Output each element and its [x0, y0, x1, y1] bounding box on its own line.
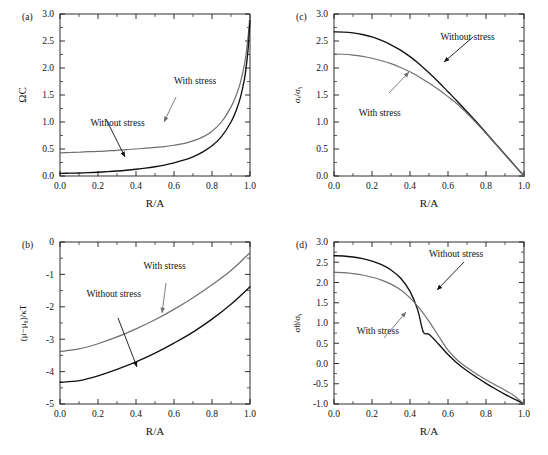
d-xticklabel: 0.8 — [480, 409, 492, 419]
d-yticklabel: -0.5 — [313, 379, 328, 389]
a-yticklabel: 0.5 — [42, 144, 54, 154]
panel-c-ylabel: σᵣ/σᵧ — [292, 86, 303, 103]
b-yticklabel: -5 — [46, 399, 54, 409]
panel-b-tag: (b) — [22, 240, 33, 251]
a-yticklabel: 1.5 — [42, 90, 54, 100]
panel-d-frame — [334, 242, 524, 404]
d-yticklabel: 2.5 — [316, 258, 328, 268]
panel-c-frame — [334, 14, 524, 176]
b-yticklabel: -1 — [46, 270, 54, 280]
d-xticklabel: 1.0 — [518, 409, 530, 419]
a-xticklabel: 0.4 — [130, 181, 142, 191]
c-annotation-label: Without stress — [440, 32, 495, 42]
d-yticklabel: 3.0 — [316, 237, 328, 247]
panel-d-svg: 0.00.20.40.60.81.0-1.0-0.50.00.51.01.52.… — [274, 228, 548, 455]
panel-c-tag: (c) — [296, 12, 307, 23]
panel-a-svg: 0.00.20.40.60.81.00.00.51.01.52.02.53.0 … — [0, 0, 274, 227]
c-yticklabel: 2.0 — [316, 63, 328, 73]
d-xticklabel: 0.4 — [404, 409, 416, 419]
panel-c-xlabel: R/A — [420, 197, 438, 209]
panel-d: 0.00.20.40.60.81.0-1.0-0.50.00.51.01.52.… — [274, 228, 548, 455]
c-yticklabel: 3.0 — [316, 9, 328, 19]
a-xticklabel: 0.2 — [92, 181, 104, 191]
a-yticklabel: 2.0 — [42, 63, 54, 73]
c-annotation-label: With stress — [359, 108, 401, 118]
a-xticklabel: 0.8 — [206, 181, 218, 191]
b-xticklabel: 1.0 — [244, 409, 256, 419]
d-yticklabel: 1.5 — [316, 298, 328, 308]
b-annotation-label: With stress — [144, 261, 186, 271]
b-xticklabel: 0.8 — [206, 409, 218, 419]
d-xticklabel: 0.0 — [328, 409, 340, 419]
d-annotation-label: Without stress — [429, 249, 484, 259]
a-xticklabel: 1.0 — [244, 181, 256, 191]
panel-b-ylabel: (μ−μ₀)/κT — [18, 304, 28, 341]
b-yticklabel: -2 — [46, 302, 54, 312]
figure-four-panel-plot: 0.00.20.40.60.81.00.00.51.01.52.02.53.0 … — [0, 0, 548, 455]
b-xticklabel: 0.0 — [54, 409, 66, 419]
d-yticklabel: 0.0 — [316, 359, 328, 369]
c-yticklabel: 1.0 — [316, 117, 328, 127]
a-xticklabel: 0.6 — [168, 181, 180, 191]
b-yticklabel: -4 — [46, 367, 54, 377]
d-xticklabel: 0.6 — [442, 409, 454, 419]
panel-a-xlabel: R/A — [146, 197, 164, 209]
d-yticklabel: -1.0 — [313, 399, 328, 409]
panel-b-svg: 0.00.20.40.60.81.0-5-4-3-2-10 With stres… — [0, 228, 274, 455]
b-xticklabel: 0.2 — [92, 409, 104, 419]
panel-b: 0.00.20.40.60.81.0-5-4-3-2-10 With stres… — [0, 228, 274, 455]
panel-a-tag: (a) — [22, 12, 33, 23]
panel-b-plot-area: 0.00.20.40.60.81.0-5-4-3-2-10 With stres… — [46, 237, 256, 419]
c-xticklabel: 0.6 — [442, 181, 454, 191]
panel-c: 0.00.20.40.60.81.00.00.51.01.52.02.53.0 … — [274, 0, 548, 227]
panel-c-plot-area: 0.00.20.40.60.81.00.00.51.01.52.02.53.0 … — [316, 9, 530, 191]
panel-a-ylabel: ΩC — [16, 87, 28, 103]
b-annotation-label: Without stress — [87, 289, 142, 299]
panel-a: 0.00.20.40.60.81.00.00.51.01.52.02.53.0 … — [0, 0, 274, 227]
a-annotation-label: With stress — [174, 76, 216, 86]
d-xticklabel: 0.2 — [366, 409, 378, 419]
panel-d-tag: (d) — [296, 240, 307, 251]
c-xticklabel: 0.2 — [366, 181, 378, 191]
c-xticklabel: 0.8 — [480, 181, 492, 191]
panel-d-xlabel: R/A — [420, 425, 438, 437]
d-yticklabel: 2.0 — [316, 278, 328, 288]
c-yticklabel: 2.5 — [316, 36, 328, 46]
b-xticklabel: 0.6 — [168, 409, 180, 419]
c-yticklabel: 0.0 — [316, 171, 328, 181]
a-annotation-label: Without stress — [90, 118, 145, 128]
a-yticklabel: 0.0 — [42, 171, 54, 181]
a-yticklabel: 2.5 — [42, 36, 54, 46]
d-yticklabel: 0.5 — [316, 339, 328, 349]
a-yticklabel: 3.0 — [42, 9, 54, 19]
a-xticklabel: 0.0 — [54, 181, 66, 191]
panel-d-ylabel: σθ/σᵧ — [292, 313, 303, 333]
a-yticklabel: 1.0 — [42, 117, 54, 127]
panel-d-plot-area: 0.00.20.40.60.81.0-1.0-0.50.00.51.01.52.… — [313, 237, 530, 419]
panel-c-svg: 0.00.20.40.60.81.00.00.51.01.52.02.53.0 … — [274, 0, 548, 227]
panel-b-xlabel: R/A — [146, 425, 164, 437]
c-xticklabel: 0.4 — [404, 181, 416, 191]
c-xticklabel: 0.0 — [328, 181, 340, 191]
c-yticklabel: 1.5 — [316, 90, 328, 100]
c-yticklabel: 0.5 — [316, 144, 328, 154]
b-yticklabel: -3 — [46, 335, 54, 345]
d-yticklabel: 1.0 — [316, 318, 328, 328]
panel-a-plot-area: 0.00.20.40.60.81.00.00.51.01.52.02.53.0 … — [42, 9, 256, 191]
b-xticklabel: 0.4 — [130, 409, 142, 419]
c-xticklabel: 1.0 — [518, 181, 530, 191]
b-yticklabel: 0 — [49, 237, 54, 247]
